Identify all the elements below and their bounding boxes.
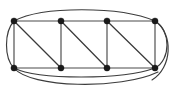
edge-diagonal-3 <box>107 21 155 68</box>
graph-canvas <box>0 0 175 97</box>
graph-diagram-figure: Planar-style graph drawing: a 4-by-2 gri… <box>0 0 175 97</box>
vertex-b2 <box>58 65 64 71</box>
edge-arc-left-outer <box>7 21 15 68</box>
edge-arc-right <box>155 21 167 68</box>
edge-arc-bottom-outer <box>14 68 158 84</box>
edge-arc-top <box>14 10 155 21</box>
vertex-t1 <box>11 18 17 24</box>
edge-diagonal-2 <box>61 21 107 68</box>
vertex-t3 <box>104 18 110 24</box>
edge-diagonal-1 <box>14 21 61 68</box>
vertex-b3 <box>104 65 110 71</box>
vertex-b4 <box>152 65 158 71</box>
vertex-t4 <box>152 18 158 24</box>
vertex-b1 <box>11 65 17 71</box>
vertex-t2 <box>58 18 64 24</box>
grid-diagonal-edges <box>14 21 155 68</box>
edge-arc-bottom <box>14 68 155 77</box>
